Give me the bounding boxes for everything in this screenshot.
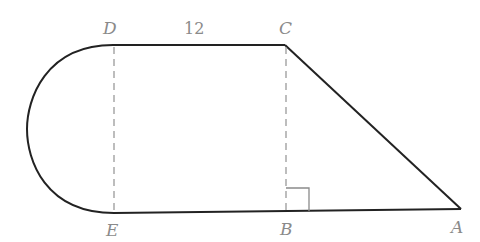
segment-ca [285, 45, 461, 209]
segment-ea [114, 209, 461, 213]
label-c: C [279, 18, 292, 38]
label-e: E [105, 220, 119, 240]
label-d: D [102, 18, 117, 38]
semicircle-arc [27, 45, 114, 213]
label-dc-length: 12 [184, 19, 204, 38]
label-b: B [279, 219, 293, 239]
label-a: A [449, 217, 463, 237]
right-angle-marker [286, 188, 309, 211]
geometry-figure: D 12 C E B A [0, 0, 480, 242]
